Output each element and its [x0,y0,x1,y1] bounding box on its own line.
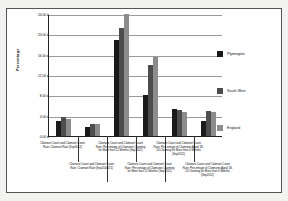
legend-label: South West [227,89,246,93]
plot-area: 0.004.008.0012.0016.0020.0024.00 [48,15,222,137]
legend-item[interactable]: Plymington [217,35,275,72]
y-tick-label: 12.00 [38,74,46,78]
y-tick-label: 0.00 [40,135,46,139]
bar [153,57,158,136]
bar [124,14,129,136]
chart-frame: Percentage 0.004.008.0012.0016.0020.0024… [6,8,282,193]
legend-item[interactable]: England [217,109,275,146]
bar-group [107,15,136,136]
bar-group [49,15,78,136]
y-axis-title: Percentage [16,49,20,71]
bar [66,119,71,136]
legend-swatch-icon [217,88,223,94]
x-axis-label: Claimant Count and Claimant Count Rate: … [182,163,234,177]
y-tick-label: 16.00 [38,54,46,58]
x-axis-label: Claimant Count and Claimant Count Rate: … [95,142,147,153]
bar-group [78,15,107,136]
y-tick-label: 20.00 [38,33,46,37]
y-tick-label: 24.00 [38,13,46,17]
x-axis-label: Claimant Count and Claimant Count Rate: … [124,163,176,174]
x-axis-label: Claimant Count and Claimant Count Rate: … [37,142,89,149]
legend-label: England [227,126,240,130]
y-tick-mark [47,137,49,138]
bar [211,112,216,136]
bar [95,124,100,136]
y-tick-label: 4.00 [40,115,46,119]
bar-series-container [49,15,222,136]
legend-label: Plymington [227,52,245,56]
bar [182,112,187,136]
bar-group [136,15,165,136]
legend-swatch-icon [217,51,223,57]
x-axis-label: Claimant Count and Claimant Count Rate: … [66,163,118,170]
x-axis-label: Claimant Count and Claimant Count Rate: … [153,142,205,156]
y-tick-label: 8.00 [40,94,46,98]
legend-swatch-icon [217,125,223,131]
chart-legend: PlymingtonSouth WestEngland [217,35,275,146]
chart-screenshot: Percentage 0.004.008.0012.0016.0020.0024… [0,0,288,201]
legend-item[interactable]: South West [217,72,275,109]
bar-group [165,15,194,136]
